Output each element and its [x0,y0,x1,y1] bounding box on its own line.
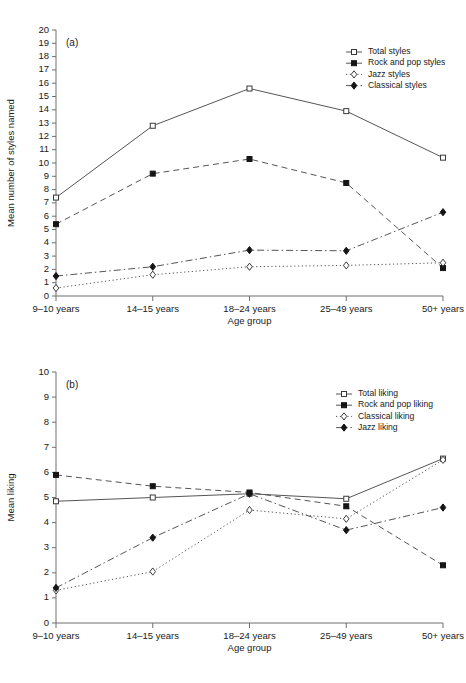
chart-b-svg: 0123456789109–10 years14–15 years18–24 y… [0,348,466,683]
legend-marker [342,392,347,397]
legend-marker [341,424,347,431]
data-point [247,263,253,270]
panel-tag: (b) [66,379,78,390]
x-tick-label: 50+ years [422,303,464,314]
x-tick-label: 18–24 years [223,303,276,314]
data-point [344,180,349,185]
y-tick-label: 7 [44,196,49,207]
y-tick-label: 4 [44,516,49,527]
series-group [53,456,446,594]
data-point [53,284,59,291]
y-tick-label: 6 [44,210,49,221]
data-point [344,109,349,114]
data-point [150,534,156,541]
series-line [56,89,443,198]
y-tick-label: 10 [38,366,49,377]
data-point [150,271,156,278]
y-tick-label: 9 [44,391,49,402]
x-tick-label: 50+ years [422,630,464,641]
data-point [150,263,156,270]
legend-marker [352,50,357,55]
x-axis-title: Age group [228,642,272,653]
data-point [54,499,59,504]
y-tick-label: 8 [44,183,49,194]
y-tick-label: 6 [44,466,49,477]
data-point [53,272,59,279]
y-tick-label: 10 [38,157,49,168]
data-point [343,515,349,522]
series-group [53,86,446,292]
legend-marker [352,61,357,66]
y-tick-label: 12 [38,130,49,141]
y-tick-label: 16 [38,77,49,88]
y-tick-label: 0 [44,290,49,301]
legend-label: Total styles [368,46,411,56]
data-point [247,157,252,162]
legend-label: Jazz styles [368,69,410,79]
x-tick-label: 14–15 years [127,303,180,314]
legend-label: Rock and pop styles [368,57,445,67]
x-tick-label: 9–10 years [32,303,79,314]
legend-label: Rock and pop liking [358,399,433,409]
data-point [343,247,349,254]
y-tick-label: 5 [44,223,49,234]
data-point [150,495,155,500]
y-tick-label: 1 [44,276,49,287]
y-tick-label: 15 [38,90,49,101]
data-point [54,195,59,200]
data-point [441,155,446,160]
data-point [247,506,253,513]
legend-label: Classical liking [358,411,415,421]
legend-marker [342,403,347,408]
data-point [150,123,155,128]
data-point [247,86,252,91]
panel-tag: (a) [66,37,78,48]
data-point [343,527,349,534]
y-tick-label: 2 [44,566,49,577]
y-tick-label: 18 [38,50,49,61]
data-point [247,247,253,254]
y-tick-label: 17 [38,63,49,74]
legend-label: Jazz liking [358,422,398,432]
x-tick-label: 9–10 years [32,630,79,641]
y-tick-label: 14 [38,103,49,114]
data-point [440,504,446,511]
y-axis-title: Mean liking [5,473,16,521]
legend-label: Total liking [358,388,398,398]
chart-panel-b: 0123456789109–10 years14–15 years18–24 y… [0,348,466,683]
data-point [150,568,156,575]
series-line [56,475,443,565]
y-tick-label: 7 [44,441,49,452]
y-tick-label: 3 [44,541,49,552]
x-axis-title: Age group [228,315,272,326]
data-point [440,209,446,216]
y-tick-label: 8 [44,416,49,427]
y-tick-label: 9 [44,170,49,181]
legend-marker [341,413,347,420]
x-tick-label: 25–49 years [320,303,373,314]
y-axis-title: Mean number of styles named [5,99,16,227]
legend: Total likingRock and pop likingClassical… [336,388,433,432]
x-tick-label: 25–49 years [320,630,373,641]
chart-panel-a: 012345678910111213141516171819209–10 yea… [0,0,466,348]
data-point [343,262,349,269]
data-point [344,504,349,509]
y-tick-label: 5 [44,491,49,502]
data-point [150,171,155,176]
y-tick-label: 1 [44,591,49,602]
y-tick-label: 13 [38,117,49,128]
y-tick-label: 19 [38,37,49,48]
y-tick-label: 3 [44,250,49,261]
y-tick-label: 11 [39,143,49,154]
chart-a-svg: 012345678910111213141516171819209–10 yea… [0,0,466,348]
series-line [56,460,443,591]
x-tick-label: 18–24 years [223,630,276,641]
x-tick-label: 14–15 years [127,630,180,641]
y-tick-label: 0 [44,617,49,628]
y-tick-label: 2 [44,263,49,274]
legend-marker [351,82,357,89]
data-point [54,472,59,477]
data-point [54,222,59,227]
data-point [344,496,349,501]
legend-marker [351,71,357,78]
